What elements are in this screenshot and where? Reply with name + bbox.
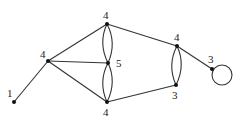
label-f: 4 bbox=[174, 31, 180, 43]
label-a: 1 bbox=[7, 87, 13, 99]
label-b: 4 bbox=[40, 48, 46, 60]
edge-f-g-1 bbox=[172, 46, 177, 85]
node-d bbox=[106, 61, 110, 65]
edge-e-g bbox=[107, 85, 176, 102]
loop-h bbox=[212, 65, 232, 85]
node-c bbox=[105, 22, 109, 26]
node-a bbox=[12, 100, 16, 104]
label-e: 4 bbox=[103, 106, 109, 118]
label-c: 4 bbox=[103, 9, 109, 21]
edge-f-g-2 bbox=[176, 46, 181, 85]
graph-diagram: 1 4 4 5 4 4 3 3 bbox=[0, 0, 235, 130]
node-e bbox=[105, 100, 109, 104]
label-h: 3 bbox=[208, 53, 214, 65]
node-f bbox=[175, 44, 179, 48]
edge-b-c bbox=[48, 24, 107, 61]
edge-b-e bbox=[48, 61, 107, 102]
nodes bbox=[12, 22, 214, 104]
node-b bbox=[46, 59, 50, 63]
node-h bbox=[210, 67, 214, 71]
edge-c-d-1 bbox=[103, 24, 108, 63]
label-g: 3 bbox=[172, 89, 178, 101]
edge-f-h bbox=[177, 46, 212, 69]
edge-c-f bbox=[107, 24, 177, 46]
node-g bbox=[174, 83, 178, 87]
edge-b-d bbox=[48, 61, 108, 63]
label-d: 5 bbox=[116, 57, 122, 69]
edge-c-d-2 bbox=[107, 24, 112, 63]
edges bbox=[14, 24, 232, 102]
edge-d-e-2 bbox=[107, 63, 112, 102]
edge-d-e-1 bbox=[103, 63, 108, 102]
edge-a-b bbox=[14, 61, 48, 102]
